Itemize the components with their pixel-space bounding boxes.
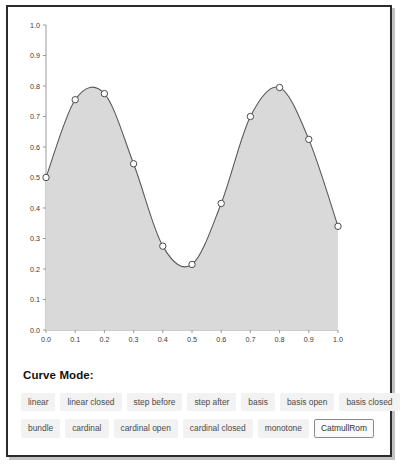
y-tick-label: 0.8 bbox=[30, 82, 40, 91]
curve-mode-button-cardinal[interactable]: cardinal bbox=[65, 419, 108, 437]
x-tick-label: 0.2 bbox=[99, 335, 109, 344]
curve-mode-button-bundle[interactable]: bundle bbox=[21, 419, 60, 437]
y-tick-label: 0.3 bbox=[30, 234, 40, 243]
x-tick-label: 0.5 bbox=[187, 335, 197, 344]
y-tick-label: 1.0 bbox=[30, 21, 40, 30]
data-point[interactable] bbox=[276, 84, 282, 90]
y-tick-label: 0.1 bbox=[30, 295, 40, 304]
y-tick-label: 0.9 bbox=[30, 51, 40, 60]
x-tick-label: 0.8 bbox=[275, 335, 285, 344]
main-panel: 0.00.10.20.30.40.50.60.70.80.91.0 0.00.1… bbox=[6, 5, 392, 457]
curve-mode-button-step-after[interactable]: step after bbox=[187, 393, 236, 411]
y-tick-label: 0.6 bbox=[30, 143, 40, 152]
curve-mode-button-basis-open[interactable]: basis open bbox=[280, 393, 335, 411]
app-root: 0.00.10.20.30.40.50.60.70.80.91.0 0.00.1… bbox=[0, 0, 404, 470]
x-tick-label: 0.7 bbox=[245, 335, 255, 344]
data-point[interactable] bbox=[218, 200, 224, 206]
data-point[interactable] bbox=[306, 136, 312, 142]
data-point[interactable] bbox=[189, 261, 195, 267]
x-tick-label: 0.1 bbox=[70, 335, 80, 344]
data-point[interactable] bbox=[247, 113, 253, 119]
curve-mode-button-cardinal-closed[interactable]: cardinal closed bbox=[183, 419, 253, 437]
curve-mode-button-basis-closed[interactable]: basis closed bbox=[339, 393, 399, 411]
data-point[interactable] bbox=[335, 223, 341, 229]
y-tick-label: 0.0 bbox=[30, 326, 40, 335]
curve-mode-button-monotone[interactable]: monotone bbox=[258, 419, 309, 437]
y-tick-label: 0.2 bbox=[30, 265, 40, 274]
curve-mode-button-linear-closed[interactable]: linear closed bbox=[60, 393, 121, 411]
x-tick-label: 0.0 bbox=[41, 335, 51, 344]
curve-mode-button-step-before[interactable]: step before bbox=[127, 393, 183, 411]
x-tick-label: 1.0 bbox=[333, 335, 343, 344]
y-tick-label: 0.4 bbox=[30, 204, 40, 213]
curve-mode-button-basis[interactable]: basis bbox=[241, 393, 275, 411]
x-tick-label: 0.4 bbox=[158, 335, 168, 344]
curve-mode-controls: Curve Mode: linearlinear closedstep befo… bbox=[8, 355, 390, 455]
curve-mode-row-1: linearlinear closedstep beforestep after… bbox=[18, 393, 380, 411]
curve-chart: 0.00.10.20.30.40.50.60.70.80.91.0 0.00.1… bbox=[8, 7, 390, 355]
x-tick-label: 0.3 bbox=[129, 335, 139, 344]
data-point[interactable] bbox=[43, 174, 49, 180]
data-point[interactable] bbox=[101, 90, 107, 96]
curve-mode-row-2: bundlecardinalcardinal opencardinal clos… bbox=[18, 419, 380, 437]
x-axis: 0.00.10.20.30.40.50.60.70.80.91.0 bbox=[41, 330, 343, 344]
curve-mode-button-cardinal-open[interactable]: cardinal open bbox=[114, 419, 178, 437]
y-tick-label: 0.5 bbox=[30, 173, 40, 182]
y-tick-label: 0.7 bbox=[30, 112, 40, 121]
x-tick-label: 0.9 bbox=[304, 335, 314, 344]
curve-mode-button-catmullrom[interactable]: CatmullRom bbox=[314, 419, 374, 437]
x-tick-group: 0.00.10.20.30.40.50.60.70.80.91.0 bbox=[41, 330, 343, 344]
chart-area-fill bbox=[46, 87, 338, 330]
curve-mode-button-linear[interactable]: linear bbox=[21, 393, 55, 411]
curve-chart-svg: 0.00.10.20.30.40.50.60.70.80.91.0 0.00.1… bbox=[8, 7, 390, 355]
data-point[interactable] bbox=[72, 97, 78, 103]
data-point[interactable] bbox=[160, 243, 166, 249]
x-tick-label: 0.6 bbox=[216, 335, 226, 344]
curve-mode-label: Curve Mode: bbox=[23, 369, 380, 381]
data-point[interactable] bbox=[130, 161, 136, 167]
